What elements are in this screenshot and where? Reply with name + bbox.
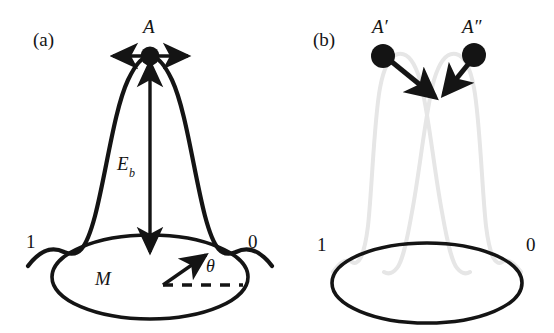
angle-theta-label: θ [206, 256, 215, 276]
state-label-1-a: 1 [26, 231, 36, 252]
barrier-energy-subscript: b [129, 166, 135, 180]
diagram-svg: (a) A E b M θ 1 0 [0, 0, 554, 333]
particle-a-prime-label: A′ [370, 16, 389, 37]
state-label-1-b: 1 [317, 234, 327, 255]
barrier-energy-label: E [116, 153, 129, 174]
panel-a-label: (a) [33, 29, 54, 51]
panel-b-label: (b) [313, 29, 335, 51]
state-label-0-a: 0 [248, 231, 258, 252]
state-label-0-b: 0 [526, 234, 536, 255]
figure-canvas: (a) A E b M θ 1 0 [0, 0, 554, 333]
particle-a-dot [141, 47, 160, 66]
particle-a-double-prime-dot [462, 43, 486, 67]
magnetization-label: M [94, 268, 112, 289]
particle-a-double-prime-label: A″ [460, 16, 483, 37]
particle-a-label: A [141, 16, 155, 37]
particle-a-prime-dot [371, 44, 395, 68]
